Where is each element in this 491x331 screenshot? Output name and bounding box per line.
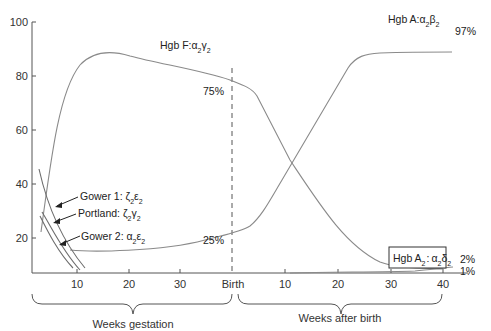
hgb-f-label: Hgb F:α2γ2 bbox=[160, 39, 211, 54]
pct-1-annotation: 1% bbox=[460, 265, 475, 277]
x-label-weeks-after-birth: Weeks after birth bbox=[299, 312, 382, 324]
x-axis: 10 20 30 Birth 10 20 30 40 bbox=[32, 269, 468, 290]
x-tick-birth: Birth bbox=[222, 278, 245, 290]
gower-1-label: Gower 1: ζ2ε2 bbox=[80, 190, 143, 205]
gower-2-curve bbox=[40, 216, 73, 268]
after-birth-brace bbox=[238, 294, 442, 314]
gower-2-label: Gower 2: α2ε2 bbox=[81, 230, 145, 245]
x-tick-after-10: 10 bbox=[279, 278, 291, 290]
y-tick-100: 100 bbox=[10, 16, 28, 28]
y-tick-40: 40 bbox=[16, 178, 28, 190]
y-tick-80: 80 bbox=[16, 70, 28, 82]
gestation-brace bbox=[32, 294, 232, 314]
pct-97-annotation: 97% bbox=[455, 25, 476, 37]
x-tick-gest-10: 10 bbox=[71, 278, 83, 290]
x-tick-after-40: 40 bbox=[437, 278, 449, 290]
y-tick-20: 20 bbox=[16, 232, 28, 244]
x-label-weeks-gestation: Weeks gestation bbox=[92, 318, 173, 330]
pct-75-annotation: 75% bbox=[203, 85, 224, 97]
hgb-a-label: Hgb A:α2β2 bbox=[388, 13, 440, 28]
gower-2-leader bbox=[59, 236, 80, 246]
portland-curve bbox=[42, 212, 80, 270]
x-tick-gest-20: 20 bbox=[123, 278, 135, 290]
pct-25-annotation: 25% bbox=[203, 234, 224, 246]
pct-2-annotation: 2% bbox=[460, 253, 475, 265]
x-tick-gest-30: 30 bbox=[174, 278, 186, 290]
y-tick-60: 60 bbox=[16, 124, 28, 136]
portland-leader bbox=[53, 214, 76, 224]
x-tick-after-20: 20 bbox=[332, 278, 344, 290]
y-axis: 100 80 60 40 20 bbox=[10, 16, 36, 273]
hemoglobin-development-chart: 100 80 60 40 20 10 20 30 Birth 10 20 30 … bbox=[0, 0, 491, 331]
portland-label: Portland: ζ2γ2 bbox=[78, 207, 141, 222]
gower-1-leader bbox=[55, 197, 78, 208]
x-tick-after-30: 30 bbox=[385, 278, 397, 290]
